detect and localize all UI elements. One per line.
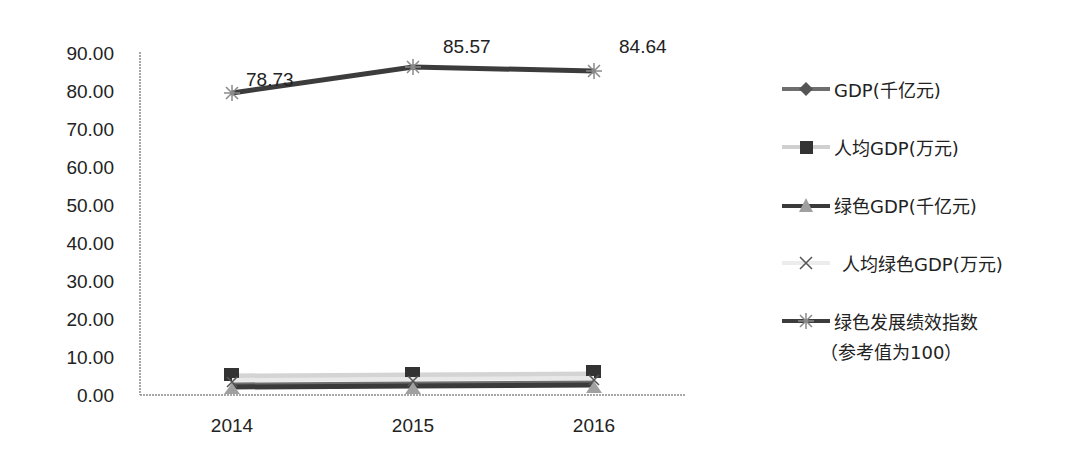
y-tick: 30.00 xyxy=(66,271,114,292)
x-tick: 2016 xyxy=(573,415,615,436)
legend-label: 绿色发展绩效指数 xyxy=(834,308,978,334)
y-tick: 70.00 xyxy=(66,119,114,140)
y-axis-ticks: 90.00 80.00 70.00 60.00 50.00 40.00 30.0… xyxy=(66,43,114,406)
y-tick: 0.00 xyxy=(77,385,114,406)
y-tick: 10.00 xyxy=(66,347,114,368)
legend-item-renjun-lvse-gdp: 人均绿色GDP(万元) xyxy=(780,244,1070,282)
star-marker xyxy=(224,85,240,101)
diamond-line-icon xyxy=(780,79,832,99)
star-line-icon xyxy=(780,311,832,331)
y-tick: 90.00 xyxy=(66,43,114,64)
data-label: 85.57 xyxy=(443,36,491,57)
y-tick: 40.00 xyxy=(66,233,114,254)
x-tick: 2015 xyxy=(392,415,434,436)
star-marker xyxy=(405,59,421,75)
data-label: 84.64 xyxy=(619,36,667,57)
chart-legend: GDP(千亿元) 人均GDP(万元) 绿色GDP(千亿元) 人均绿色GDP(万元… xyxy=(780,70,1070,340)
y-tick: 60.00 xyxy=(66,157,114,178)
legend-item-lvse-fazhan-index: 绿色发展绩效指数 （参考值为100） xyxy=(780,302,1070,340)
legend-item-lvse-gdp: 绿色GDP(千亿元) xyxy=(780,186,1070,224)
legend-label: 人均GDP(万元) xyxy=(834,134,959,160)
data-label: 78.73 xyxy=(246,69,294,90)
x-axis-ticks: 2014 2015 2016 xyxy=(211,415,615,436)
x-tick: 2014 xyxy=(211,415,254,436)
legend-sublabel: （参考值为100） xyxy=(820,338,962,364)
star-marker xyxy=(586,63,602,79)
y-tick: 80.00 xyxy=(66,81,114,102)
y-tick: 20.00 xyxy=(66,309,114,330)
square-line-icon xyxy=(780,137,832,157)
y-tick: 50.00 xyxy=(66,195,114,216)
triangle-line-icon xyxy=(780,195,832,215)
legend-item-gdp: GDP(千亿元) xyxy=(780,70,1070,108)
legend-label: 人均绿色GDP(万元) xyxy=(842,250,1003,276)
legend-item-renjun-gdp: 人均GDP(万元) xyxy=(780,128,1070,166)
legend-label: 绿色GDP(千亿元) xyxy=(834,192,977,218)
series-renjun-lvse-gdp xyxy=(232,378,594,380)
legend-label: GDP(千亿元) xyxy=(834,76,941,102)
x-line-icon xyxy=(780,253,832,273)
